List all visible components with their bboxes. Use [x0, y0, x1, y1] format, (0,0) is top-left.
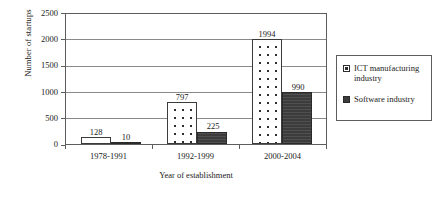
x-tick-mark-start [65, 145, 66, 149]
value-label-ict-1992-1999: 797 [165, 93, 199, 102]
legend-label-ict: ICT manufacturing industry [354, 63, 432, 83]
x-tick-label-1978-1991: 1978-1991 [65, 151, 152, 161]
x-tick-mark-1 [152, 145, 153, 149]
y-tick-label-1500: 1500 [24, 61, 58, 69]
y-tick-label-2500: 2500 [24, 9, 58, 17]
filled-square-icon [343, 96, 350, 103]
value-label-ict-1978-1991: 128 [79, 128, 113, 137]
bar-ict-1978-1991 [81, 137, 111, 144]
bar-software-1978-1991 [111, 142, 141, 144]
value-label-ict-2000-2004: 1994 [250, 30, 284, 39]
bar-software-2000-2004 [282, 92, 312, 144]
value-label-software-2000-2004: 990 [283, 83, 313, 92]
y-tick-label-1000: 1000 [24, 88, 58, 96]
legend-item-software: Software industry [343, 94, 432, 104]
gridline-1500 [66, 66, 326, 67]
value-label-software-1978-1991: 10 [112, 133, 140, 142]
bar-software-1992-1999 [197, 132, 227, 144]
gridline-2000 [66, 39, 326, 40]
legend-item-ict: ICT manufacturing industry [343, 63, 432, 83]
bar-ict-1992-1999 [167, 102, 197, 144]
y-tick-label-0: 0 [24, 140, 58, 148]
plot-area: 128 10 797 225 1994 990 [65, 13, 327, 145]
y-tick-label-500: 500 [24, 114, 58, 122]
x-tick-label-1992-1999: 1992-1999 [152, 151, 239, 161]
dotted-square-icon [343, 65, 350, 72]
chart-legend: ICT manufacturing industry Software indu… [336, 55, 432, 121]
value-label-software-1992-1999: 225 [199, 122, 227, 131]
x-tick-label-2000-2004: 2000-2004 [239, 151, 326, 161]
x-tick-mark-end [326, 145, 327, 149]
bar-ict-2000-2004 [252, 39, 282, 144]
x-tick-mark-2 [239, 145, 240, 149]
legend-label-software: Software industry [354, 94, 432, 104]
y-tick-label-2000: 2000 [24, 35, 58, 43]
x-axis-title: Year of establishment [65, 170, 327, 180]
bar-chart-figure: Number of startups 2500 2000 1500 1000 5… [0, 0, 448, 197]
